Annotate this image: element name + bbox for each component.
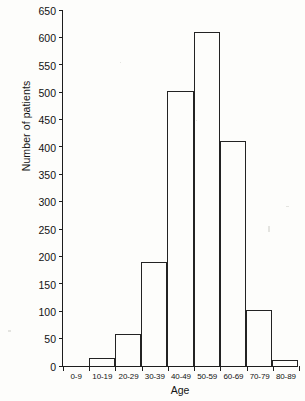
y-tick-mark bbox=[59, 229, 63, 230]
scan-speckle bbox=[120, 62, 121, 63]
y-tick-mark bbox=[59, 64, 63, 65]
x-tick-0-9 bbox=[63, 366, 64, 371]
y-tick-label: 100 bbox=[38, 306, 56, 317]
histogram-figure: Number of patients 050100150200250300350… bbox=[0, 0, 305, 401]
x-tick-label-40-49: 40-49 bbox=[168, 372, 194, 381]
x-axis-title: Age bbox=[62, 384, 298, 396]
y-tick-label: 650 bbox=[38, 5, 56, 16]
y-tick-label: 600 bbox=[38, 33, 56, 44]
y-tick-mark bbox=[59, 201, 63, 202]
y-tick-label: 550 bbox=[38, 60, 56, 71]
y-tick-label: 500 bbox=[38, 87, 56, 98]
plot-area: 050100150200250300350400450500550600650 … bbox=[62, 11, 298, 367]
bar-20-29 bbox=[115, 334, 141, 366]
y-tick-mark bbox=[59, 92, 63, 93]
y-tick-mark bbox=[59, 37, 63, 38]
scan-speckle bbox=[196, 120, 197, 121]
x-tick-label-50-59: 50-59 bbox=[194, 372, 220, 381]
y-tick-label: 350 bbox=[38, 170, 56, 181]
x-tick-60-69 bbox=[220, 366, 221, 371]
y-tick-mark bbox=[59, 283, 63, 284]
bar-10-19 bbox=[89, 358, 115, 366]
y-tick-label: 50 bbox=[44, 334, 56, 345]
x-tick-50-59 bbox=[194, 366, 195, 371]
y-tick-label: 200 bbox=[38, 252, 56, 263]
x-tick-label-30-39: 30-39 bbox=[142, 372, 168, 381]
y-tick-label: 300 bbox=[38, 197, 56, 208]
x-tick-30-39 bbox=[142, 366, 143, 371]
bar-70-79 bbox=[246, 310, 272, 366]
y-tick-mark bbox=[59, 311, 63, 312]
bar-80-89 bbox=[272, 360, 298, 366]
scan-speckle bbox=[268, 226, 270, 232]
y-tick-label: 450 bbox=[38, 115, 56, 126]
y-tick-mark bbox=[59, 338, 63, 339]
x-tick-40-49 bbox=[168, 366, 169, 371]
x-tick-label-0-9: 0-9 bbox=[63, 372, 89, 381]
y-axis-title: Number of patients bbox=[20, 56, 32, 196]
bar-50-59 bbox=[194, 32, 220, 366]
x-tick-label-20-29: 20-29 bbox=[115, 372, 141, 381]
bar-30-39 bbox=[141, 262, 167, 366]
x-tick-label-10-19: 10-19 bbox=[89, 372, 115, 381]
x-tick-label-60-69: 60-69 bbox=[220, 372, 246, 381]
y-tick-label: 150 bbox=[38, 279, 56, 290]
x-tick-end bbox=[299, 366, 300, 371]
y-tick-mark bbox=[59, 174, 63, 175]
y-tick-mark bbox=[59, 10, 63, 11]
y-tick-mark bbox=[59, 256, 63, 257]
bar-60-69 bbox=[220, 141, 246, 366]
x-tick-10-19 bbox=[89, 366, 90, 371]
x-tick-80-89 bbox=[273, 366, 274, 371]
scan-speckle bbox=[286, 206, 289, 207]
x-tick-label-70-79: 70-79 bbox=[247, 372, 273, 381]
y-tick-label: 250 bbox=[38, 224, 56, 235]
x-tick-label-80-89: 80-89 bbox=[273, 372, 299, 381]
y-tick-label: 0 bbox=[50, 361, 56, 372]
y-tick-mark bbox=[59, 119, 63, 120]
bar-40-49 bbox=[167, 91, 193, 366]
x-tick-70-79 bbox=[247, 366, 248, 371]
y-tick-mark bbox=[59, 146, 63, 147]
y-tick-label: 400 bbox=[38, 142, 56, 153]
scan-speckle bbox=[8, 330, 11, 332]
x-tick-20-29 bbox=[115, 366, 116, 371]
